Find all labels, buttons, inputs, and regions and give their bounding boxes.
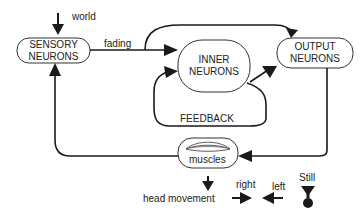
sensory-neurons-label: SENSORY NEURONS [17,39,90,63]
left-arrow [262,192,283,204]
right-arrow [232,192,252,204]
muscles-label: muscles [189,154,226,165]
head-movement-arrow [202,176,214,191]
sensory-line1: SENSORY [17,39,90,51]
hourglass-still-icon [301,186,315,208]
output-to-muscles-edge [238,68,327,162]
right-label: right [236,179,255,190]
world-label: world [72,11,96,22]
still-label: Still [299,172,315,183]
output-line1: OUTPUT [277,41,353,53]
inner-line1: INNER [178,54,250,66]
head-movement-label: head movement [143,193,215,204]
sensory-line2: NEURONS [17,51,90,63]
inner-neurons-label: INNER NEURONS [178,54,250,78]
output-line2: NEURONS [277,53,353,65]
feedback-label: FEEDBACK [180,113,234,124]
left-label: left [272,181,285,192]
world-arrow [52,13,64,35]
inner-line2: NEURONS [178,66,250,78]
inner-to-output-edge [250,66,277,82]
fading-label: fading [104,38,131,49]
output-neurons-label: OUTPUT NEURONS [277,41,353,65]
